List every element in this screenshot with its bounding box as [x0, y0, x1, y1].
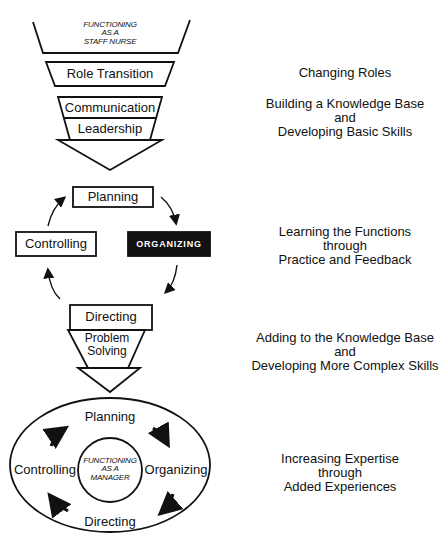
caption-line: and: [230, 111, 443, 125]
caption-line: Practice and Feedback: [230, 253, 443, 267]
caption-line: Developing Basic Skills: [230, 125, 443, 139]
cycle-arrow-controlling-to-planning: [48, 198, 64, 226]
problem-solving-line-1: Problem: [76, 332, 138, 345]
caption-line: Adding to the Knowledge Base: [225, 331, 443, 345]
staff-nurse-label: FUNCTIONING AS A STAFF NURSE: [70, 21, 150, 46]
caption-knowledge-base: Building a Knowledge Base and Developing…: [230, 97, 443, 139]
cycle-controlling-label: Controlling: [16, 237, 96, 251]
manager-planning-label: Planning: [80, 410, 140, 424]
caption-line: through: [230, 239, 443, 253]
cycle-arrow-directing-to-controlling: [48, 270, 60, 299]
caption-increasing-expertise: Increasing Expertise through Added Exper…: [225, 452, 443, 494]
leadership-label: Leadership: [65, 122, 155, 136]
manager-arrow-bottom-left: [51, 497, 68, 511]
caption-line: Increasing Expertise: [225, 452, 443, 466]
caption-changing-roles: Changing Roles: [230, 66, 443, 80]
staff-nurse-line-3: STAFF NURSE: [70, 38, 150, 46]
caption-line: Developing More Complex Skills: [225, 359, 443, 373]
cycle-organizing-label: ORGANIZING: [128, 240, 210, 249]
cycle-planning-label: Planning: [73, 190, 153, 204]
cycle-arrow-organizing-to-directing: [166, 265, 177, 292]
caption-line: through: [225, 466, 443, 480]
cycle-directing-label: Directing: [70, 310, 152, 324]
caption-line: Building a Knowledge Base: [230, 97, 443, 111]
caption-complex-skills: Adding to the Knowledge Base and Develop…: [225, 331, 443, 373]
caption-line: Added Experiences: [225, 480, 443, 494]
manager-arrow-top-right: [153, 428, 167, 443]
problem-solving-line-2: Solving: [76, 345, 138, 358]
manager-arrow-top-left: [51, 429, 64, 446]
manager-center-label: FUNCTIONING AS A MANAGER: [80, 457, 140, 482]
down-arrow-2: [78, 368, 140, 392]
role-transition-label: Role Transition: [55, 67, 165, 81]
communication-label: Communication: [60, 101, 160, 115]
caption-line: Changing Roles: [230, 66, 443, 80]
caption-line: and: [225, 345, 443, 359]
problem-solving-label: Problem Solving: [76, 332, 138, 357]
down-arrow-1: [58, 140, 162, 170]
manager-center-line-3: MANAGER: [80, 474, 140, 482]
cycle-arrow-planning-to-organizing: [161, 197, 176, 223]
manager-directing-label: Directing: [80, 515, 140, 529]
manager-controlling-label: Controlling: [12, 463, 78, 477]
caption-line: Learning the Functions: [230, 225, 443, 239]
manager-organizing-label: Organizing: [142, 463, 210, 477]
manager-arrow-bottom-right: [162, 494, 173, 512]
caption-learning-functions: Learning the Functions through Practice …: [230, 225, 443, 267]
